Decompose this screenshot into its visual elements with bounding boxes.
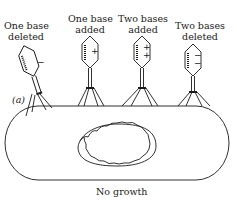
diagram-drawing [0, 0, 237, 205]
phage-1-icon [16, 43, 47, 95]
phage-1-sign: − [37, 58, 45, 67]
phage-2-sign: + [91, 47, 99, 56]
bacterial-cell-outline [5, 106, 229, 180]
cell-caption: No growth [96, 186, 147, 197]
phage-3-sign: + + [143, 43, 151, 59]
chromosome-icon [78, 122, 156, 166]
phage-2-icon [82, 36, 98, 88]
panel-label: (a) [12, 94, 25, 105]
phage-4-sign: − − [194, 51, 202, 67]
